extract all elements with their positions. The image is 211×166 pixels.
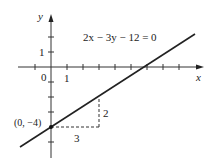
run-label: 3 (74, 132, 80, 144)
x-axis-arrow-icon (196, 65, 204, 70)
graph-canvas: y x 0 1 1 2x − 3y − 12 = 0 (0, −4) 3 2 (0, 0, 211, 166)
origin-label: 0 (41, 71, 47, 83)
x-tick-label: 1 (64, 72, 70, 84)
y-axis-arrow-icon (49, 14, 54, 22)
y-axis (48, 14, 54, 158)
x-axis-label: x (195, 71, 201, 83)
x-axis (18, 64, 204, 70)
equation-label: 2x − 3y − 12 = 0 (83, 31, 157, 43)
equation-line (20, 34, 195, 147)
y-axis-label: y (37, 10, 43, 22)
point-label: (0, −4) (14, 117, 41, 129)
y-tick-label: 1 (39, 46, 45, 58)
rise-label: 2 (103, 107, 109, 119)
intercept-point (49, 125, 53, 129)
